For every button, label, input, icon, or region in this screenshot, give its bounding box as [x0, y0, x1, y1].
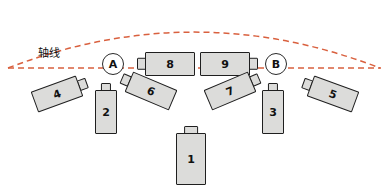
device-body: [95, 90, 117, 134]
device-tab-right: [249, 58, 258, 70]
device-1[interactable]: 1: [176, 133, 206, 185]
device-body: [176, 133, 206, 185]
device-2[interactable]: 2: [95, 90, 117, 134]
node-circle-b[interactable]: B: [265, 53, 287, 75]
device-8[interactable]: 8: [145, 52, 195, 76]
device-body: [262, 90, 284, 134]
device-body: [145, 52, 195, 76]
node-circle-a[interactable]: A: [102, 53, 124, 75]
diagram-canvas: 轴线 AB 894267351: [0, 0, 389, 193]
node-label: A: [109, 58, 118, 71]
node-label: B: [272, 58, 280, 71]
device-3[interactable]: 3: [262, 90, 284, 134]
axis-label: 轴线: [38, 44, 60, 60]
